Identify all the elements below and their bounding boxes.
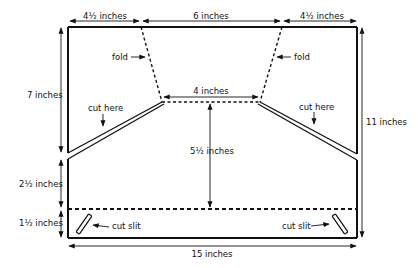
- label-center-vertical: 5½ inches: [190, 146, 234, 156]
- label-inner-top: 4 inches: [193, 86, 229, 96]
- label-top-left: 4½ inches: [83, 11, 127, 21]
- label-right-total: 11 inches: [366, 117, 408, 127]
- label-cut-here-right: cut here: [299, 102, 334, 112]
- slit-right: [332, 214, 348, 234]
- label-left-middle: 2½ inches: [19, 179, 63, 189]
- slit-left: [76, 214, 92, 234]
- label-top-middle: 6 inches: [193, 11, 229, 21]
- label-left-lower: 1½ inches: [19, 218, 63, 228]
- label-cut-slit-right: cut slit: [282, 221, 311, 231]
- label-left-upper: 7 inches: [27, 90, 63, 100]
- pattern-diagram: 4½ inches 6 inches 4½ inches 4 inches 7 …: [0, 0, 418, 268]
- label-fold-right: fold: [294, 52, 310, 62]
- label-cut-here-left: cut here: [88, 103, 123, 113]
- label-cut-slit-left: cut slit: [112, 221, 141, 231]
- dimension-arrows: [61, 21, 362, 246]
- label-fold-left: fold: [112, 52, 128, 62]
- label-top-right: 4½ inches: [300, 11, 344, 21]
- label-bottom-total: 15 inches: [192, 249, 234, 259]
